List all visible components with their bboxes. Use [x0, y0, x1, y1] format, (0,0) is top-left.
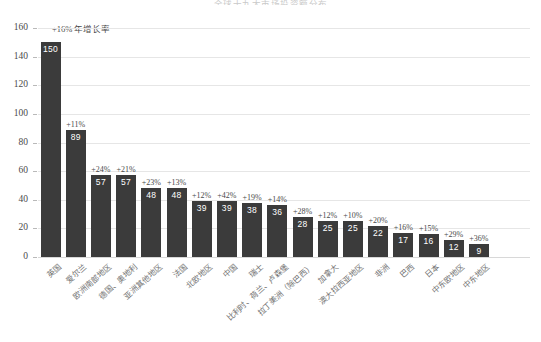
bar-value-label: 57 — [89, 177, 112, 187]
bar-slot[interactable]: 89+11% — [64, 28, 87, 257]
x-tick-label: 中国 — [221, 261, 240, 280]
y-tick-label: 40 — [0, 194, 28, 204]
y-tick-mark — [33, 171, 37, 172]
chart-title: 全球十九大市场投资额分布 — [0, 0, 541, 5]
bar-slot[interactable]: 16+15% — [417, 28, 440, 257]
bar-value-label: 9 — [467, 246, 490, 256]
y-tick-mark — [33, 257, 37, 258]
bar-slot[interactable]: 48+13% — [165, 28, 188, 257]
x-label-anchor: 日本 — [434, 261, 435, 262]
x-label-anchor: 中国 — [232, 261, 233, 262]
y-tick-label: 0 — [0, 251, 28, 261]
bar-slot[interactable]: 39+12% — [190, 28, 213, 257]
x-tick-label: 日本 — [422, 261, 441, 280]
y-tick-label: 160 — [0, 22, 28, 32]
bar-value-label: 89 — [64, 132, 87, 142]
y-tick-label: 20 — [0, 222, 28, 232]
bar-value-label: 48 — [140, 190, 163, 200]
y-tick-label: 60 — [0, 165, 28, 175]
bar-growth-label: +36% — [461, 234, 496, 243]
bar[interactable] — [41, 42, 61, 257]
y-tick-mark — [33, 28, 37, 29]
bar-slot[interactable]: 28+28% — [291, 28, 314, 257]
bar-slot[interactable]: 48+23% — [140, 28, 163, 257]
bar-value-label: 25 — [316, 223, 339, 233]
bar-slot[interactable]: 25+12% — [316, 28, 339, 257]
y-tick-label: 80 — [0, 137, 28, 147]
x-tick-label: 瑞士 — [246, 261, 265, 280]
y-tick-mark — [33, 114, 37, 115]
x-label-anchor: 英国 — [56, 261, 57, 262]
y-tick-mark — [33, 228, 37, 229]
x-tick-label: 中东地区 — [461, 261, 492, 291]
bar[interactable] — [116, 175, 136, 257]
bar-value-label: 25 — [341, 223, 364, 233]
bar-slot[interactable]: 150+16% — [39, 28, 62, 257]
bar-slot[interactable]: 38+19% — [241, 28, 264, 257]
x-label-anchor: 比利时、荷兰、卢森堡 — [283, 261, 284, 262]
x-label-anchor: 北欧地区 — [207, 261, 208, 262]
bar-value-label: 150 — [39, 44, 62, 54]
y-tick-mark — [33, 143, 37, 144]
x-tick-label: 法国 — [170, 261, 189, 280]
bar-growth-label: +13% — [159, 178, 194, 187]
bar-slot[interactable]: 9+36% — [467, 28, 490, 257]
x-label-anchor: 加拿大 — [333, 261, 334, 262]
chart-container: 全球十九大市场投资额分布 +16% 年增长率 02040608010012014… — [0, 0, 541, 342]
bar-slot[interactable]: 12+29% — [442, 28, 465, 257]
y-tick-label: 100 — [0, 108, 28, 118]
x-label-anchor: 中东地区 — [484, 261, 485, 262]
bar-slot[interactable]: 57+21% — [115, 28, 138, 257]
bar-value-label: 39 — [190, 203, 213, 213]
x-tick-label: 英国 — [44, 261, 63, 280]
bar-value-label: 38 — [241, 205, 264, 215]
bar-value-label: 17 — [392, 235, 415, 245]
bar-slot[interactable]: 36+14% — [266, 28, 289, 257]
x-label-anchor: 巴西 — [409, 261, 410, 262]
bar-slot[interactable]: 17+16% — [392, 28, 415, 257]
plot-area: 020406080100120140160 150+16%89+11%57+24… — [38, 28, 530, 257]
bar-growth-label: +14% — [260, 195, 295, 204]
y-tick-mark — [33, 57, 37, 58]
gridline — [38, 257, 530, 258]
x-label-anchor: 德国、奥地利 — [132, 261, 133, 262]
bar-slot[interactable]: 57+24% — [89, 28, 112, 257]
x-label-anchor: 瑞士 — [258, 261, 259, 262]
x-label-anchor: 拉丁美洲（除巴西） — [308, 261, 309, 262]
x-label-anchor: 澳大拉西亚地区 — [358, 261, 359, 262]
bar-value-label: 28 — [291, 219, 314, 229]
x-tick-label: 北欧地区 — [183, 261, 214, 291]
x-tick-label: 巴西 — [397, 261, 416, 280]
bar-growth-label: +21% — [109, 165, 144, 174]
x-label-anchor: 爱尔兰 — [81, 261, 82, 262]
bar-value-label: 12 — [442, 242, 465, 252]
y-tick-label: 120 — [0, 79, 28, 89]
bar[interactable] — [91, 175, 111, 257]
x-label-anchor: 欧洲南部地区 — [106, 261, 107, 262]
x-tick-label: 非洲 — [372, 261, 391, 280]
bar[interactable] — [66, 130, 86, 257]
x-label-anchor: 法国 — [182, 261, 183, 262]
x-label-anchor: 非洲 — [384, 261, 385, 262]
x-label-anchor: 亚洲其他地区 — [157, 261, 158, 262]
y-tick-label: 140 — [0, 51, 28, 61]
y-tick-mark — [33, 85, 37, 86]
bar-slot[interactable]: 39+42% — [215, 28, 238, 257]
bar-growth-label: +11% — [58, 120, 93, 129]
bar-value-label: 39 — [215, 203, 238, 213]
y-tick-mark — [33, 200, 37, 201]
x-label-anchor: 中东欧地区 — [459, 261, 460, 262]
